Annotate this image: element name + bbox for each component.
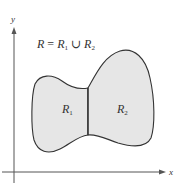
union-equation: R = R1 ∪ R2 (36, 37, 95, 52)
x-axis-arrow-icon (159, 170, 166, 175)
region-r2 (88, 50, 154, 146)
y-axis-arrow-icon (12, 27, 17, 34)
x-axis-label: x (168, 167, 173, 177)
region-union-diagram: y x R = R1 ∪ R2 R1 R2 (0, 0, 177, 192)
region-r1 (32, 76, 88, 152)
y-axis-label: y (10, 14, 15, 24)
